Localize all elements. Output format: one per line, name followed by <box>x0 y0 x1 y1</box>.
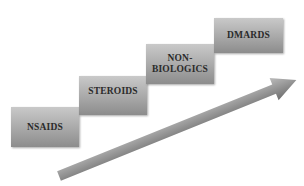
step-non-biologics: NON- BIOLOGICS <box>146 44 214 84</box>
step-nsaids: NSAIDS <box>11 107 79 147</box>
step-label: STEROIDS <box>88 86 138 97</box>
step-dmards: DMARDS <box>214 18 283 53</box>
step-label: NON- BIOLOGICS <box>152 53 208 75</box>
step-label: NSAIDS <box>27 122 63 133</box>
step-label: DMARDS <box>227 30 270 41</box>
step-steroids: STEROIDS <box>79 76 147 115</box>
